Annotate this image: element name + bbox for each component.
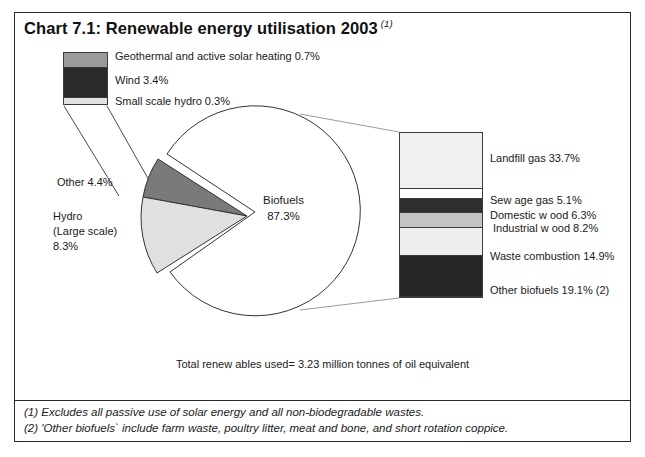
label-biofuels-value: 87.3% bbox=[263, 208, 304, 224]
label-waste-combustion: Waste combustion 14.9% bbox=[490, 250, 614, 262]
label-hydro-large-scale: Hydro (Large scale) 8.3% bbox=[53, 209, 117, 254]
chart-title-footnote-marker: (1) bbox=[381, 18, 393, 29]
biofuels-breakdown-bar bbox=[399, 132, 483, 298]
chart-title: Chart 7.1: Renewable energy utilisation … bbox=[24, 18, 393, 38]
total-renewables-note: Total renew ables used= 3.23 million ton… bbox=[0, 358, 645, 370]
bar-segment-domestic-wood bbox=[400, 199, 482, 213]
bar-segment-other-biofuels bbox=[400, 256, 482, 297]
footnote-2: (2) 'Other biofuels` include farm waste,… bbox=[24, 422, 508, 434]
label-biofuels-name: Biofuels bbox=[263, 192, 304, 208]
label-small-scale-hydro: Small scale hydro 0.3% bbox=[115, 95, 230, 107]
label-wind: Wind 3.4% bbox=[115, 74, 168, 86]
bar-segment-small-scale-hydro bbox=[64, 98, 107, 104]
bar-segment-geothermal bbox=[64, 53, 107, 68]
bar-segment-landfill-gas bbox=[400, 133, 482, 189]
label-industrial-wood: Industrial w ood 8.2% bbox=[493, 222, 598, 234]
label-landfill-gas: Landfill gas 33.7% bbox=[490, 152, 580, 164]
other-breakdown-bar bbox=[63, 52, 108, 105]
label-hydro-line3: 8.3% bbox=[53, 239, 117, 254]
bar-segment-waste-combustion bbox=[400, 228, 482, 256]
label-geothermal: Geothermal and active solar heating 0.7% bbox=[115, 50, 320, 62]
label-domestic-wood: Domestic w ood 6.3% bbox=[490, 209, 596, 221]
label-sewage-gas: Sew age gas 5.1% bbox=[490, 194, 582, 206]
bar-segment-industrial-wood bbox=[400, 213, 482, 228]
footnote-divider bbox=[15, 400, 630, 401]
footnote-1: (1) Excludes all passive use of solar en… bbox=[24, 406, 424, 418]
label-hydro-line1: Hydro bbox=[53, 209, 117, 224]
label-biofuels: Biofuels 87.3% bbox=[263, 192, 304, 224]
bar-segment-sewage-gas bbox=[400, 189, 482, 199]
label-other-biofuels: Other biofuels 19.1% (2) bbox=[490, 284, 609, 296]
chart-page: Chart 7.1: Renewable energy utilisation … bbox=[0, 0, 645, 457]
label-hydro-line2: (Large scale) bbox=[53, 224, 117, 239]
chart-title-text: Chart 7.1: Renewable energy utilisation … bbox=[24, 19, 378, 37]
bar-segment-wind bbox=[64, 68, 107, 98]
label-other: Other 4.4% bbox=[57, 176, 113, 188]
